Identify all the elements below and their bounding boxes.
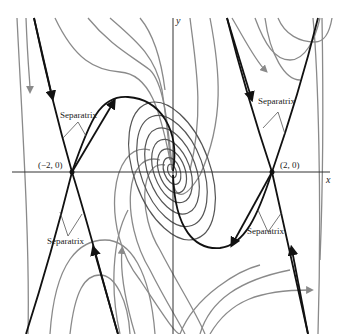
x-axis-label: x <box>325 174 331 185</box>
equilibrium-label-left: (−2, 0) <box>38 160 63 170</box>
saddle-point-right <box>270 170 275 175</box>
separatrices <box>26 18 318 334</box>
trajectories <box>17 18 332 334</box>
equilibrium-label-right: (2, 0) <box>280 160 300 170</box>
spiral-center <box>112 90 233 251</box>
separatrix-label-lower-right: Separatrix <box>247 226 284 236</box>
separatrix-label-upper-right: Separatrix <box>258 96 295 106</box>
y-axis-label: y <box>175 15 181 26</box>
separatrix-label-upper-left: Separatrix <box>60 110 97 120</box>
phase-portrait-svg: Separatrix Separatrix Separatrix Separat… <box>0 0 344 334</box>
phase-portrait: Separatrix Separatrix Separatrix Separat… <box>0 0 344 334</box>
saddle-point-left <box>70 170 75 175</box>
separatrix-label-lower-left: Separatrix <box>47 236 84 246</box>
